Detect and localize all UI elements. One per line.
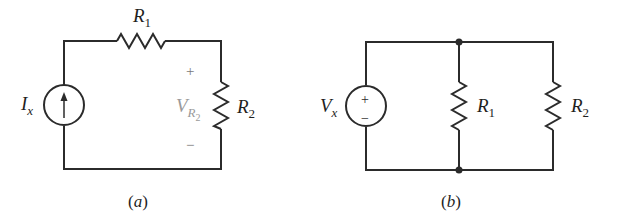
node-dot-bottom <box>456 167 463 174</box>
resistor-r2-b-icon <box>546 82 560 130</box>
plus-sign-b: + <box>361 92 369 107</box>
label-vx: Vx <box>320 95 338 120</box>
caption-a: (a) <box>128 192 148 211</box>
wire-a-top-left <box>64 41 117 85</box>
resistor-r2-a-icon <box>214 82 228 129</box>
circuit-figure: Ix R1 R2 + VR2 − (a) + <box>0 0 623 218</box>
label-r1-b: R1 <box>476 95 495 120</box>
label-ix: Ix <box>20 93 33 118</box>
minus-sign-a: − <box>186 137 194 153</box>
label-r2-b: R2 <box>570 95 589 120</box>
minus-sign-b: − <box>361 111 369 126</box>
label-r2-a: R2 <box>236 96 255 121</box>
arrow-up-icon <box>61 92 68 118</box>
circuit-b: + − Vx R1 R2 (b) <box>320 39 589 212</box>
circuit-a: Ix R1 R2 + VR2 − (a) <box>20 5 255 211</box>
node-dot-top <box>456 39 463 46</box>
resistor-r1-a-icon <box>117 34 165 48</box>
label-vr2: VR2 <box>176 95 201 123</box>
wire-a-bottom <box>64 126 221 169</box>
label-r1-a: R1 <box>132 5 151 30</box>
plus-sign-a: + <box>186 63 194 79</box>
caption-b: (b) <box>441 192 461 211</box>
resistor-r1-b-icon <box>452 82 466 130</box>
